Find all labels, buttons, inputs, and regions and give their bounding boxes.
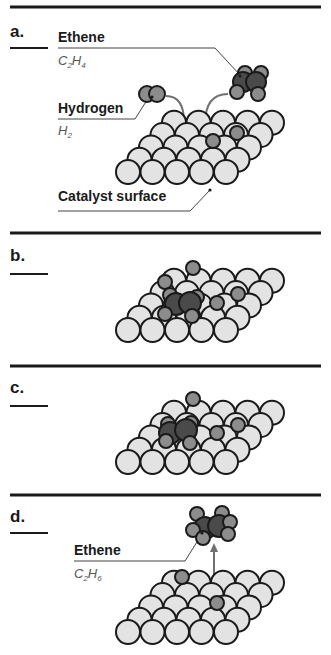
hydrogen-atom	[158, 307, 172, 321]
surface-atom	[165, 450, 189, 474]
catalyst-surface-label: Catalyst surface	[58, 188, 166, 204]
hydrogen-atom	[230, 85, 244, 99]
panel-a-label: a.	[10, 22, 24, 42]
surface-atom	[190, 160, 214, 184]
panel-c-label: c.	[10, 378, 24, 398]
surface-atom	[214, 620, 238, 644]
hydrogen-atom	[159, 434, 173, 448]
surface-atom	[214, 450, 238, 474]
surface-atom	[190, 620, 214, 644]
ethene-formula: C2H4	[58, 53, 86, 70]
surface-atom	[141, 620, 165, 644]
hydrogen-atom	[231, 418, 245, 432]
lattice-panel-a	[116, 111, 284, 184]
surface-atom	[141, 160, 165, 184]
hydrogen-atom	[231, 287, 245, 301]
hydrogen-atom	[175, 570, 189, 584]
ethene-label: Ethene	[58, 29, 105, 45]
product-formula: C2H6	[74, 566, 102, 583]
lattice-panel-d	[116, 571, 284, 644]
surface-atom	[116, 620, 140, 644]
hydrogen-atom	[183, 436, 197, 450]
surface-atom	[141, 318, 165, 342]
d-arrowhead	[210, 543, 218, 552]
hydrogen-atom	[185, 309, 199, 323]
hydrogen-atom	[158, 275, 172, 289]
hydrogen-atom	[186, 261, 200, 275]
surface-atom	[165, 318, 189, 342]
surface-atom	[116, 450, 140, 474]
hydrogen-atom	[210, 596, 224, 610]
surface-atom	[116, 160, 140, 184]
hydrogen-atom	[210, 296, 224, 310]
surface-atom	[165, 620, 189, 644]
hydrogen-atom	[230, 126, 244, 140]
hydrogen-formula: H2	[58, 123, 72, 140]
surface-atom	[214, 160, 238, 184]
catalytic-hydrogenation-diagram	[0, 0, 331, 655]
hydrogen-atom	[149, 86, 165, 102]
panel-label-underlines	[10, 48, 48, 533]
lattice-panel-c	[116, 401, 284, 474]
surface-atom	[116, 318, 140, 342]
hydrogen-atom	[206, 134, 220, 148]
hydrogen-atom	[251, 87, 265, 101]
panel-d-label: d.	[10, 507, 25, 527]
product-label: Ethene	[74, 542, 121, 558]
panel-b-label: b.	[10, 246, 25, 266]
hydrogen-atom	[210, 426, 224, 440]
surface-atom	[214, 318, 238, 342]
surface-atom	[190, 450, 214, 474]
surface-atom	[165, 160, 189, 184]
hydrogen-atom	[186, 392, 200, 406]
surface-atom	[141, 450, 165, 474]
hydrogen-atom	[221, 527, 235, 541]
hydrogen-label: Hydrogen	[58, 100, 123, 116]
